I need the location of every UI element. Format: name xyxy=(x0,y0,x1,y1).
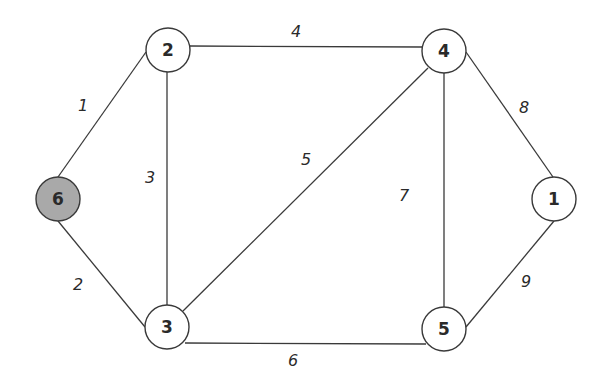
weight-label-3-4: 5 xyxy=(301,150,311,169)
weight-label-4-5: 7 xyxy=(399,186,410,205)
node-3: 3 xyxy=(145,305,189,349)
edge-3-4 xyxy=(183,68,428,311)
weight-label-6-2: 1 xyxy=(78,96,88,115)
weight-label-6-3: 2 xyxy=(73,275,83,294)
edges-layer xyxy=(58,46,554,344)
node-1: 1 xyxy=(532,177,576,221)
weight-label-4-1: 8 xyxy=(519,98,529,117)
edge-5-1 xyxy=(466,221,554,327)
graph-svg: 1 2 3 4 5 6 7 8 9 6 2 4 xyxy=(0,0,605,386)
weight-label-2-3: 3 xyxy=(145,168,155,187)
weight-label-3-5: 6 xyxy=(288,351,298,370)
node-6-label: 6 xyxy=(52,189,64,209)
node-3-label: 3 xyxy=(161,317,173,337)
node-1-label: 1 xyxy=(548,189,560,209)
edge-4-1 xyxy=(466,52,553,177)
node-4: 4 xyxy=(422,29,466,73)
graph-diagram: 1 2 3 4 5 6 7 8 9 6 2 4 xyxy=(0,0,605,386)
node-2-label: 2 xyxy=(162,40,174,60)
edge-2-4 xyxy=(190,46,422,47)
weight-label-2-4: 4 xyxy=(291,22,301,41)
node-4-label: 4 xyxy=(438,41,450,61)
node-5: 5 xyxy=(422,307,466,351)
node-5-label: 5 xyxy=(438,319,450,339)
edge-6-2 xyxy=(58,52,146,177)
edge-3-5 xyxy=(185,343,426,344)
edge-6-3 xyxy=(58,221,145,327)
weight-label-5-1: 9 xyxy=(521,272,531,291)
node-6: 6 xyxy=(36,177,80,221)
node-2: 2 xyxy=(146,28,190,72)
